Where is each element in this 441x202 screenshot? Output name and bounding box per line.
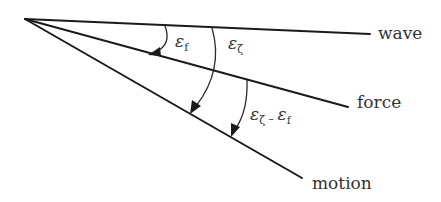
force-label: force — [357, 92, 401, 112]
motion-label: motion — [312, 173, 372, 193]
arrowhead-icon — [148, 47, 161, 56]
angle-label-eps-zeta-minus-eps-f: εζ – εf — [250, 104, 292, 127]
motion-ray — [25, 19, 302, 178]
angle-label-eps-zeta: εζ — [228, 33, 243, 56]
wave-ray — [25, 19, 370, 34]
angle-arc-eps-f — [156, 26, 167, 52]
angle-diagram: wave force motion εf εζ εζ – εf — [0, 0, 441, 202]
angle-label-eps-f: εf — [175, 31, 189, 54]
arrowhead-icon — [231, 123, 240, 137]
angle-arc-eps-zeta-minus-eps-f — [236, 80, 247, 128]
wave-label: wave — [378, 23, 422, 43]
force-ray — [25, 19, 348, 107]
